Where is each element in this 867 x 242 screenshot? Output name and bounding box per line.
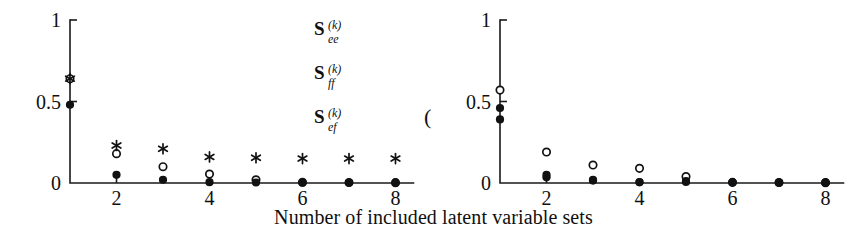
series-asterisk [66, 74, 400, 164]
legend: See(k)Sff(k)Sef(k)( [314, 18, 431, 134]
legend-symbol-S: S [314, 62, 325, 83]
x-axis-tick-label: 4 [635, 187, 645, 205]
legend-subscript: ff [328, 76, 336, 90]
data-point-asterisk [112, 141, 121, 151]
x-axis-tick-label: 8 [821, 187, 831, 205]
x-axis-caption: Number of included latent variable sets [0, 206, 867, 229]
y-axis-tick-label: 0.5 [466, 91, 491, 113]
data-point-filled-dot [821, 179, 829, 187]
scatter-plot-left: 00.512468See(k)Sff(k)Sef(k)( [0, 0, 440, 205]
data-point-asterisk [159, 144, 168, 154]
series-open-circle [66, 75, 399, 186]
data-point-filled-dot [252, 178, 260, 186]
data-point-filled-dot [682, 178, 690, 186]
data-point-filled-dot [391, 179, 399, 187]
data-point-open-circle [636, 165, 643, 172]
x-axis-tick-label: 2 [542, 187, 552, 205]
axis-lines [70, 20, 414, 183]
x-axis-tick-label: 8 [391, 187, 401, 205]
data-point-open-circle [543, 148, 550, 155]
figure-container: 00.512468See(k)Sff(k)Sef(k)( 00.512468 N… [0, 0, 867, 242]
data-point-filled-dot [66, 101, 74, 109]
legend-subscript: ef [328, 120, 338, 134]
legend-symbol-S: S [314, 106, 325, 127]
y-axis-tick-label: 0 [51, 172, 61, 194]
data-point-filled-dot [728, 178, 736, 186]
data-point-filled-dot [345, 179, 353, 187]
y-axis-tick-label: 1 [481, 9, 491, 31]
data-point-asterisk [345, 154, 354, 164]
x-axis-tick-label: 6 [728, 187, 738, 205]
data-point-asterisk [391, 154, 400, 164]
data-point-filled-dot [496, 104, 504, 112]
data-point-filled-dot [298, 179, 306, 187]
chart-panel-left: 00.512468See(k)Sff(k)Sef(k)( [0, 0, 440, 205]
data-point-open-circle [206, 170, 213, 177]
legend-superscript: (k) [328, 62, 341, 76]
scatter-plot-right: 00.512468 [430, 0, 867, 205]
data-point-asterisk [205, 152, 214, 162]
data-point-filled-dot [159, 176, 167, 184]
legend-superscript: (k) [328, 106, 341, 120]
data-point-filled-dot [542, 173, 550, 181]
x-axis-tick-label: 6 [298, 187, 308, 205]
chart-panel-right: 00.512468 [430, 0, 867, 205]
data-point-filled-dot [205, 178, 213, 186]
legend-subscript: ee [328, 32, 339, 46]
data-point-asterisk [298, 154, 307, 164]
y-axis-tick-label: 0 [481, 172, 491, 194]
x-axis-tick-label: 4 [205, 187, 215, 205]
axes-group: 00.512468 [36, 9, 414, 205]
data-point-open-circle [589, 161, 596, 168]
data-point-filled-dot [589, 176, 597, 184]
data-point-filled-dot [496, 115, 504, 123]
data-point-open-circle [496, 86, 503, 93]
data-point-filled-dot [635, 178, 643, 186]
legend-symbol-S: S [314, 18, 325, 39]
data-point-filled-dot [775, 179, 783, 187]
data-point-asterisk [252, 153, 261, 163]
y-axis-tick-label: 0.5 [36, 91, 61, 113]
axis-lines [500, 20, 844, 183]
axes-group: 00.512468 [466, 9, 844, 205]
data-point-filled-dot [112, 171, 120, 179]
x-axis-tick-label: 2 [112, 187, 122, 205]
legend-superscript: (k) [328, 18, 341, 32]
data-point-open-circle [159, 163, 166, 170]
y-axis-tick-label: 1 [51, 9, 61, 31]
